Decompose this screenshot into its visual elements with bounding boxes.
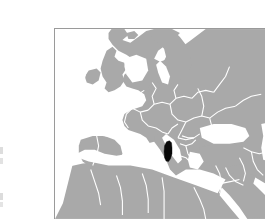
margin-mark — [0, 202, 3, 207]
margin-mark — [0, 147, 3, 154]
page-canvas — [0, 0, 265, 219]
locator-map-figure — [54, 28, 265, 219]
europe-locator-map — [55, 29, 265, 219]
margin-mark — [0, 158, 3, 164]
margin-mark — [0, 193, 3, 200]
